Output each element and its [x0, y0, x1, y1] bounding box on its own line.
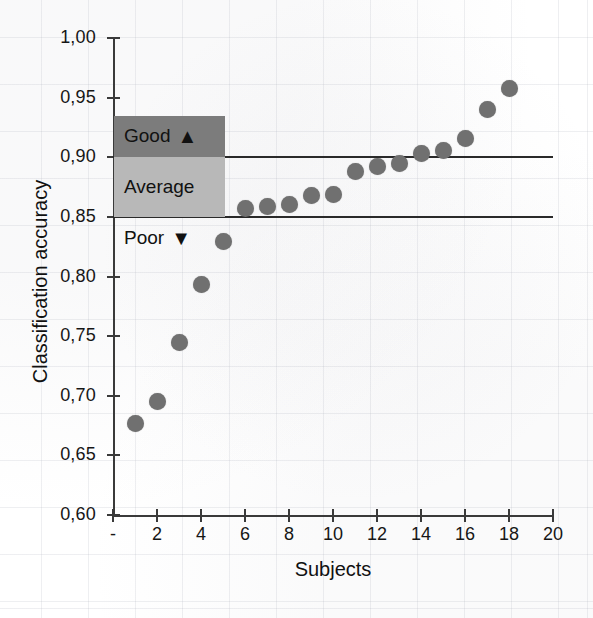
- data-point: [171, 334, 188, 351]
- data-point: [127, 415, 144, 432]
- x-tick-label: 16: [445, 524, 485, 545]
- data-point: [325, 186, 342, 203]
- y-axis-line: [113, 38, 115, 517]
- triangle-down-icon: ▼: [171, 228, 191, 248]
- triangle-up-icon: ▲: [177, 126, 197, 146]
- y-tick-mark: [107, 37, 120, 39]
- y-tick-mark: [107, 395, 120, 397]
- band-good-label: Good: [124, 125, 170, 147]
- x-tick-label: 14: [401, 524, 441, 545]
- data-point: [391, 155, 408, 172]
- x-tick-mark: [200, 509, 202, 522]
- x-tick-mark: [288, 509, 290, 522]
- x-tick-label: 10: [313, 524, 353, 545]
- data-point: [369, 158, 386, 175]
- x-tick-label: 8: [269, 524, 309, 545]
- x-tick-label: 18: [489, 524, 529, 545]
- x-tick-label: 4: [181, 524, 221, 545]
- y-tick-mark: [107, 97, 120, 99]
- x-tick-mark: [464, 509, 466, 522]
- x-tick-mark: [420, 509, 422, 522]
- y-tick-mark: [107, 276, 120, 278]
- data-point: [259, 198, 276, 215]
- x-tick-mark: [508, 509, 510, 522]
- x-tick-mark: [332, 509, 334, 522]
- x-tick-mark: [156, 509, 158, 522]
- x-tick-label: 20: [533, 524, 573, 545]
- data-point: [193, 276, 210, 293]
- x-tick-label: 2: [137, 524, 177, 545]
- x-tick-label: 12: [357, 524, 397, 545]
- band-poor-label: Poor: [124, 227, 164, 249]
- y-tick-label: 0,60: [24, 504, 96, 525]
- x-tick-label: -: [93, 524, 133, 545]
- data-point: [281, 196, 298, 213]
- data-point: [479, 101, 496, 118]
- data-point: [347, 163, 364, 180]
- x-tick-mark: [112, 509, 114, 522]
- band-average-label: Average: [124, 176, 194, 198]
- data-point: [435, 142, 452, 159]
- x-tick-label: 6: [225, 524, 265, 545]
- y-tick-label: 1,00: [24, 27, 96, 48]
- data-point: [303, 187, 320, 204]
- data-point: [215, 233, 232, 250]
- y-axis-title: Classification accuracy: [29, 72, 52, 492]
- y-tick-mark: [107, 454, 120, 456]
- x-tick-mark: [552, 509, 554, 522]
- y-tick-mark: [107, 335, 120, 337]
- x-tick-mark: [244, 509, 246, 522]
- data-point: [149, 393, 166, 410]
- band-average: Average: [114, 157, 225, 217]
- data-point: [501, 80, 518, 97]
- data-point: [237, 200, 254, 217]
- x-tick-mark: [376, 509, 378, 522]
- band-poor: Poor▼: [114, 217, 225, 259]
- x-axis-title: Subjects: [113, 558, 553, 581]
- band-good: Good▲: [114, 116, 225, 158]
- scatter-chart: 1,000,950,900,850,800,750,700,650,60 -24…: [0, 0, 593, 618]
- data-point: [457, 130, 474, 147]
- data-point: [413, 145, 430, 162]
